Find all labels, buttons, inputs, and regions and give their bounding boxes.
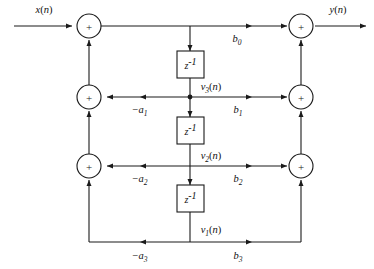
figure-canvas: z-1 z-1 z-1: [0, 0, 374, 269]
coefficient-label-b0: b0: [233, 33, 242, 47]
adder-left-1-symbol: +: [86, 21, 92, 33]
coefficient-label-a1: −a1: [133, 104, 148, 118]
coefficient-label-b2: b2: [234, 173, 243, 187]
coefficient-label-a3: −a3: [133, 250, 148, 264]
coefficient-label-b3: b3: [234, 250, 243, 264]
adder-right-1-symbol: +: [298, 21, 304, 33]
signal-flow-diagram: z-1 z-1 z-1: [0, 0, 374, 269]
output-signal-label: y(n): [329, 4, 347, 16]
adder-right-2-symbol: +: [298, 92, 304, 104]
state-label-v1: v1(n): [201, 224, 222, 238]
coefficient-label-a2: −a2: [133, 173, 148, 187]
adder-right-3-symbol: +: [298, 161, 304, 173]
input-signal-label: x(n): [35, 4, 53, 16]
adder-left-2-symbol: +: [86, 92, 92, 104]
coefficient-label-b1: b1: [234, 104, 243, 118]
state-label-v2: v2(n): [201, 150, 222, 164]
state-label-v3: v3(n): [201, 81, 222, 95]
adder-left-3-symbol: +: [86, 161, 92, 173]
